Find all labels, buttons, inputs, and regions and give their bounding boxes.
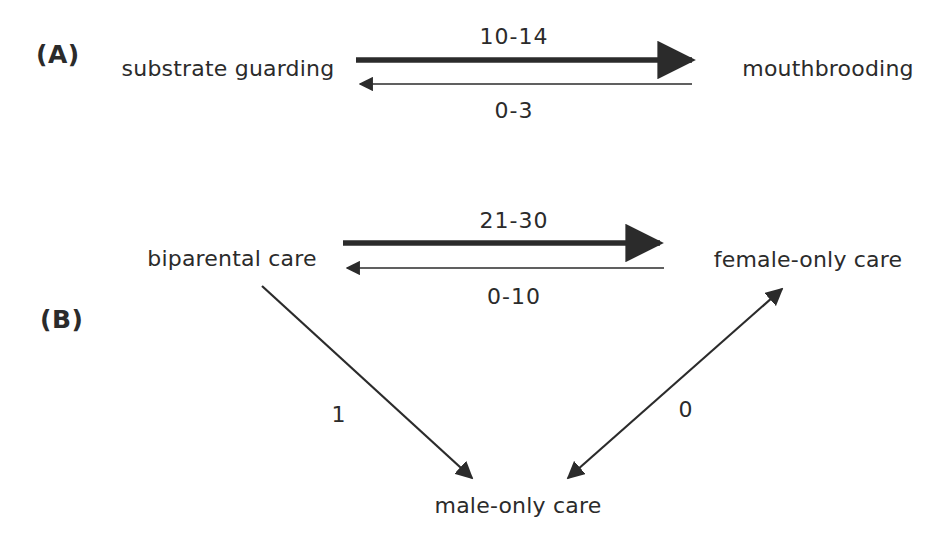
node-biparental-care: biparental care	[147, 246, 316, 271]
arrow-mo-fo	[568, 289, 782, 478]
transition-rate-diagram: (A) substrate guarding mouthbrooding 10-…	[0, 0, 942, 535]
node-mouthbrooding: mouthbrooding	[742, 56, 913, 81]
node-substrate-guarding: substrate guarding	[122, 56, 335, 81]
edge-label-bp-to-fo: 21-30	[480, 208, 549, 233]
panel-label-a: (A)	[36, 40, 80, 69]
edge-label-sg-to-mb: 10-14	[480, 24, 549, 49]
node-male-only-care: male-only care	[435, 493, 602, 518]
edge-label-bp-to-mo: 1	[332, 402, 347, 427]
node-female-only-care: female-only care	[714, 247, 903, 272]
arrow-bp-to-mo	[262, 286, 472, 478]
edge-label-mo-fo: 0	[679, 397, 694, 422]
edge-label-fo-to-bp: 0-10	[487, 284, 541, 309]
edge-label-mb-to-sg: 0-3	[495, 98, 534, 123]
panel-label-b: (B)	[40, 305, 83, 334]
